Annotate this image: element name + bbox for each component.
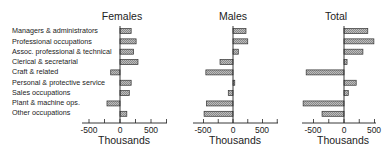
bar-total-1 (344, 39, 374, 44)
total-xaxis-title: Thousands (317, 134, 369, 146)
bar-total-6 (344, 91, 348, 96)
bar-males-0 (233, 29, 246, 34)
bar-total-7 (303, 101, 344, 106)
bar-males-7 (206, 101, 233, 106)
bar-males-6 (228, 91, 233, 96)
bar-females-1 (120, 39, 136, 44)
panel-total (302, 26, 376, 123)
bar-females-6 (120, 91, 129, 96)
bar-total-5 (344, 80, 356, 85)
bar-total-3 (344, 60, 347, 65)
bar-total-4 (306, 70, 344, 75)
bar-females-8 (120, 111, 127, 116)
panel-females (82, 26, 167, 123)
males-xaxis-title: Thousands (209, 134, 261, 146)
bar-females-0 (120, 29, 131, 34)
bar-total-0 (344, 29, 368, 34)
panel-males (193, 26, 278, 123)
bar-males-1 (233, 39, 248, 44)
bar-males-3 (220, 60, 233, 65)
bar-males-8 (204, 111, 233, 116)
bar-males-4 (206, 70, 233, 75)
bar-females-4 (111, 70, 120, 75)
females-tick-neg500: -500 (80, 125, 97, 135)
bar-total-2 (344, 49, 363, 54)
bar-total-8 (322, 111, 344, 116)
bar-females-2 (120, 49, 134, 54)
total-tick-500: 500 (367, 125, 381, 135)
bar-females-7 (107, 101, 120, 106)
females-xaxis-title: Thousands (98, 134, 150, 146)
bar-females-3 (120, 60, 138, 65)
bar-females-5 (120, 80, 131, 85)
bar-males-2 (233, 49, 238, 54)
